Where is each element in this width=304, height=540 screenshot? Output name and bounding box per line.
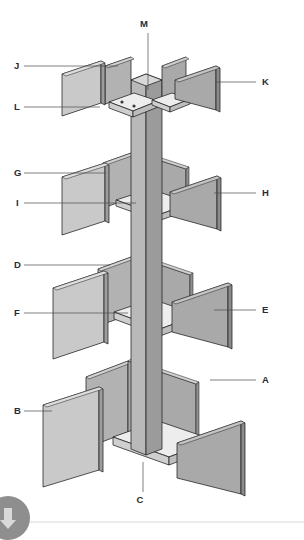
callout-label-j: J [14, 60, 19, 71]
callout-label-g: G [14, 167, 22, 178]
panel-j-edge [101, 61, 105, 105]
callout-label-l: L [14, 101, 20, 112]
column-right-face [146, 74, 162, 455]
panel-b-edge [99, 387, 103, 472]
callout-label-a: A [262, 374, 269, 385]
panel-g-edge [105, 163, 109, 223]
exploded-assembly-diagram: ABCDEFGHIJKLM [0, 0, 304, 540]
panel-h-edge [217, 176, 221, 231]
panel-e-edge [228, 283, 232, 349]
shelf-l-hole-2 [132, 104, 135, 107]
callout-label-k: K [262, 76, 269, 87]
callout-label-d: D [14, 259, 21, 270]
panel-f-edge [104, 271, 108, 344]
panel-k-edge [216, 66, 220, 112]
callout-label-b: B [14, 405, 21, 416]
callout-label-i: I [16, 197, 19, 208]
callout-label-c: C [136, 494, 143, 505]
callout-label-e: E [262, 304, 269, 315]
callout-label-f: F [14, 307, 20, 318]
panel-bottom-right-edge [241, 421, 245, 496]
shelf-l-hole-1 [120, 100, 123, 103]
column-left-face [131, 74, 146, 455]
panel-b-face [43, 387, 99, 487]
diagram-canvas: ABCDEFGHIJKLM [0, 0, 304, 540]
callout-label-h: H [262, 187, 269, 198]
callout-label-m: M [140, 18, 148, 29]
central-column-group [131, 74, 162, 455]
